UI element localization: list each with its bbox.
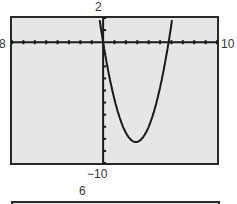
axes	[12, 18, 217, 163]
graph-plot	[0, 0, 237, 204]
parabola-curve	[100, 20, 172, 142]
